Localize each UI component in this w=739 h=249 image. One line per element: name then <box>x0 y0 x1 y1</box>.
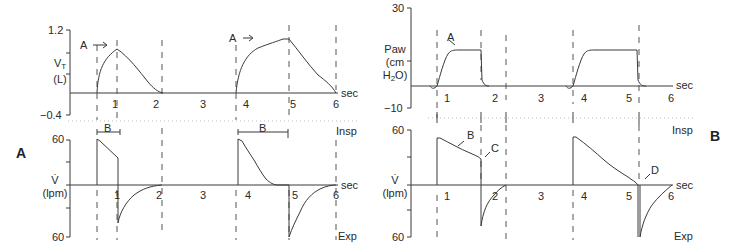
panel-a-volume-xtick-1: 1 <box>112 99 118 110</box>
panel-a-flow-exp-label: Exp <box>338 231 357 242</box>
panel-a-volume-ytick-bottom: −0.4 <box>40 110 62 121</box>
panel-a-flow-xtick-3: 3 <box>200 190 206 201</box>
flow-curve-b2 <box>573 137 672 237</box>
panel-b-flow-xunit: sec <box>676 180 693 191</box>
panel-a-volume-xtick-3: 3 <box>200 99 206 110</box>
panel-b-flow-annotation-b: B <box>467 130 474 141</box>
panel-a-flow-xunit: sec <box>341 180 358 191</box>
flow-curve-2 <box>238 139 336 237</box>
panel-b-pressure-ytick-top: 30 <box>392 3 404 14</box>
panel-b-flow-xtick-3: 3 <box>538 191 544 202</box>
panel-a-flow-ytick-top: 60 <box>52 134 64 145</box>
panel-b-pressure-xtick-4: 4 <box>581 93 587 104</box>
panel-b-pressure-ylabel: Paw (cm H2O) <box>379 43 411 85</box>
panel-a-flow-ylabel: V̇ (lpm) <box>40 174 70 200</box>
panel-a-flow-insp-label: Insp <box>336 126 357 137</box>
panel-b-flow-xtick-4: 4 <box>581 191 587 202</box>
panel-b-flow-xtick-2: 2 <box>492 191 498 202</box>
panel-b-pressure-xtick-2: 2 <box>492 93 498 104</box>
panel-b-flow-xtick-1: 1 <box>444 191 450 202</box>
panel-a-volume-ytick-top: 1.2 <box>48 25 63 36</box>
panel-b-pressure-xtick-1: 1 <box>444 93 450 104</box>
panel-a-volume-xunit: sec <box>341 88 358 99</box>
panel-a-volume-annotation-a2: A <box>229 33 236 44</box>
panel-label-a: A <box>16 145 26 161</box>
panel-b-flow-chart <box>407 125 673 240</box>
pressure-curve-1 <box>430 50 489 88</box>
pressure-curve-2 <box>566 50 646 88</box>
panel-b-pressure-xunit: sec <box>676 80 693 91</box>
panel-b-flow-annotation-d: D <box>651 165 659 176</box>
panel-a-flow-xtick-2: 2 <box>156 190 162 201</box>
panel-a-flow-annotation-b2: B <box>259 123 266 134</box>
volume-curve-1 <box>97 49 163 93</box>
panel-b-flow-xtick-6: 6 <box>668 191 674 202</box>
panel-b-pressure-xtick-5: 5 <box>626 93 632 104</box>
panel-b-flow-exp-label: Exp <box>674 231 693 242</box>
panel-a-volume-xtick-6: 6 <box>333 99 339 110</box>
panel-label-b: B <box>710 128 720 144</box>
panel-b-pressure-xtick-6: 6 <box>668 93 674 104</box>
panel-a-flow-ytick-bottom: 60 <box>52 232 64 243</box>
panel-a-volume-annotation-a1: A <box>80 40 87 51</box>
volume-curve-2 <box>236 39 336 93</box>
panel-a-volume-xtick-5: 5 <box>290 99 296 110</box>
panel-a-flow-xtick-6: 6 <box>333 190 339 201</box>
panel-b-flow-ylabel: V̇ (lpm) <box>380 174 410 200</box>
panel-b-pressure-xtick-3: 3 <box>538 93 544 104</box>
panel-b-pressure-annotation-a: A <box>447 32 454 43</box>
panel-a-flow-xtick-4: 4 <box>245 190 251 201</box>
panel-a-volume-xtick-4: 4 <box>243 99 249 110</box>
panel-b-flow-ytick-top: 60 <box>392 125 404 136</box>
panel-b-flow-ytick-bottom: 60 <box>392 232 404 243</box>
panel-b-flow-xtick-5: 5 <box>626 191 632 202</box>
panel-b-pressure-ytick-bottom: −10 <box>384 103 403 114</box>
panel-a-volume-ylabel: VT (L) <box>50 57 70 86</box>
panel-a-volume-xtick-2: 2 <box>153 99 159 110</box>
panel-a-flow-xtick-1: 1 <box>114 190 120 201</box>
flow-curve-1 <box>97 139 162 223</box>
panel-a-flow-annotation-b1: B <box>104 123 111 134</box>
panel-a-flow-xtick-5: 5 <box>292 190 298 201</box>
panel-b-flow-insp-label: Insp <box>672 125 693 136</box>
panel-a-flow-chart <box>66 128 338 240</box>
panel-b-flow-annotation-c: C <box>491 143 499 154</box>
